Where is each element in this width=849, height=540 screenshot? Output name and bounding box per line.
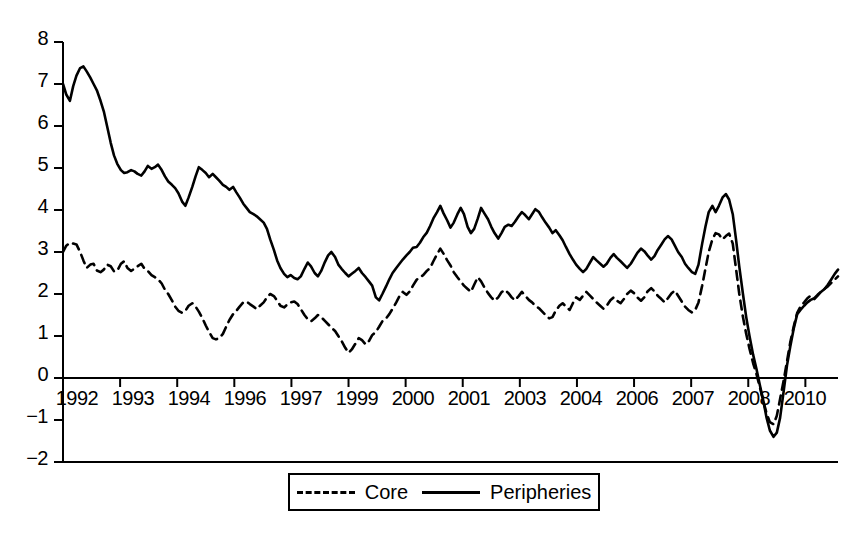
- chart-legend: Core Peripheries: [288, 473, 600, 511]
- x-tick-label-2010: 2010: [779, 388, 831, 408]
- x-tick-label-2004: 2004: [555, 388, 607, 408]
- x-tick-label-2003: 2003: [499, 388, 551, 408]
- y-tick-label-8: 8: [14, 28, 48, 48]
- x-tick-label-2000: 2000: [387, 388, 439, 408]
- y-tick-label-1: 1: [14, 322, 48, 342]
- x-tick-label-2001: 2001: [443, 388, 495, 408]
- solid-line-icon: [422, 491, 480, 494]
- y-tick-label-7: 7: [14, 70, 48, 90]
- y-tick-label-minus-1: −1: [8, 406, 48, 426]
- x-tick-label-2008: 2008: [723, 388, 775, 408]
- x-tick-label-1996: 1996: [219, 388, 271, 408]
- chart-figure: 8 7 6 5 4 3 2 1 0 −1 −2 1992 1993 1994 1…: [0, 0, 849, 540]
- x-tick-label-1993: 1993: [107, 388, 159, 408]
- y-tick-label-5: 5: [14, 154, 48, 174]
- series-group: [63, 66, 838, 436]
- dashed-line-icon: [297, 491, 355, 494]
- y-tick-label-0: 0: [14, 364, 48, 384]
- x-tick-label-1992: 1992: [51, 388, 103, 408]
- series-line-peripheries: [63, 66, 838, 436]
- x-tick-label-2007: 2007: [667, 388, 719, 408]
- x-tick-label-1999: 1999: [331, 388, 383, 408]
- line-chart-canvas: [0, 0, 849, 540]
- y-tick-label-2: 2: [14, 280, 48, 300]
- legend-entry-core: Core: [297, 482, 408, 502]
- x-tick-label-1994: 1994: [163, 388, 215, 408]
- x-tick-label-1997: 1997: [275, 388, 327, 408]
- legend-label-core: Core: [365, 482, 408, 502]
- y-tick-label-4: 4: [14, 196, 48, 216]
- x-tick-label-2006: 2006: [611, 388, 663, 408]
- y-tick-label-3: 3: [14, 238, 48, 258]
- y-tick-label-6: 6: [14, 112, 48, 132]
- legend-entry-peripheries: Peripheries: [422, 482, 591, 502]
- y-tick-label-minus-2: −2: [8, 448, 48, 468]
- legend-label-peripheries: Peripheries: [490, 482, 591, 502]
